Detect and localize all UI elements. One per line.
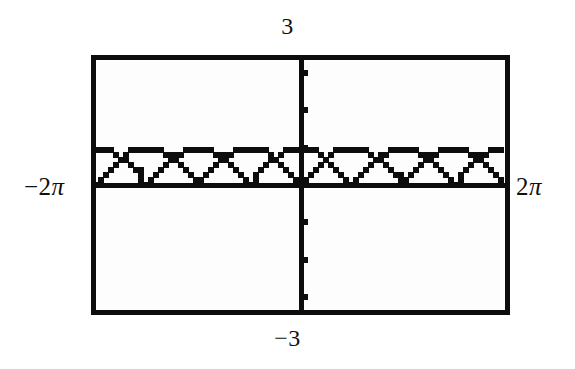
y-axis-tick [299, 219, 308, 225]
y-axis-tick [299, 107, 308, 113]
x-max-number: 2 [516, 173, 529, 200]
y-axis-tick [299, 294, 308, 300]
x-max-label: 2π [516, 174, 542, 199]
y-axis-tick [299, 70, 308, 76]
y-min-label: −3 [0, 326, 575, 350]
y-max-label: 3 [0, 14, 575, 38]
x-min-number: 2 [39, 173, 52, 200]
plot-canvas [96, 60, 505, 310]
calculator-screen-frame [91, 55, 510, 315]
x-min-sign: − [24, 173, 39, 200]
calculator-graph-figure: 3 −2π 2π −3 [0, 0, 575, 369]
plot-area [96, 60, 505, 310]
x-min-label: −2π [24, 174, 65, 199]
pi-symbol-right: π [529, 173, 542, 200]
pi-symbol-left: π [52, 173, 65, 200]
y-axis-tick [299, 257, 308, 263]
